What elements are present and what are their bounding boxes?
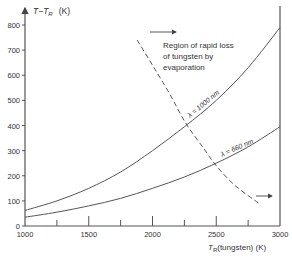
curve-660nm [25,127,280,217]
x-tick-label: 1500 [80,230,97,239]
axes [25,6,280,226]
curve-660nm-label: λ = 660 nm [219,137,255,158]
y-tick-label: 200 [7,172,20,181]
region-text-line1: Region of rapid loss [163,41,234,50]
x-axis-title: TR(tungsten) (K) [208,243,266,253]
y-tick-label: 100 [7,197,20,206]
region-text-line2: of tungsten by [163,52,213,61]
y-ticks: 0100200300400500600700800 [7,21,25,231]
x-tick-label: 2500 [208,230,225,239]
region-text-line3: evaporation [163,63,205,72]
y-axis-title: T−TR(K) [33,6,70,17]
chart: 0100200300400500600700800 10001500200025… [0,0,292,257]
curve-1000nm-label: λ = 1000 nm [185,88,220,119]
x-tick-label: 1000 [17,230,34,239]
y-tick-label: 400 [7,122,20,131]
x-tick-label: 3000 [272,230,289,239]
y-tick-label: 800 [7,21,20,30]
y-tick-label: 500 [7,96,20,105]
x-tick-label: 2000 [144,230,161,239]
y-tick-label: 300 [7,147,20,156]
y-tick-label: 600 [7,71,20,80]
y-tick-label: 700 [7,46,20,55]
x-ticks: 10001500200025003000 [17,216,289,239]
curve-1000nm [25,28,280,211]
